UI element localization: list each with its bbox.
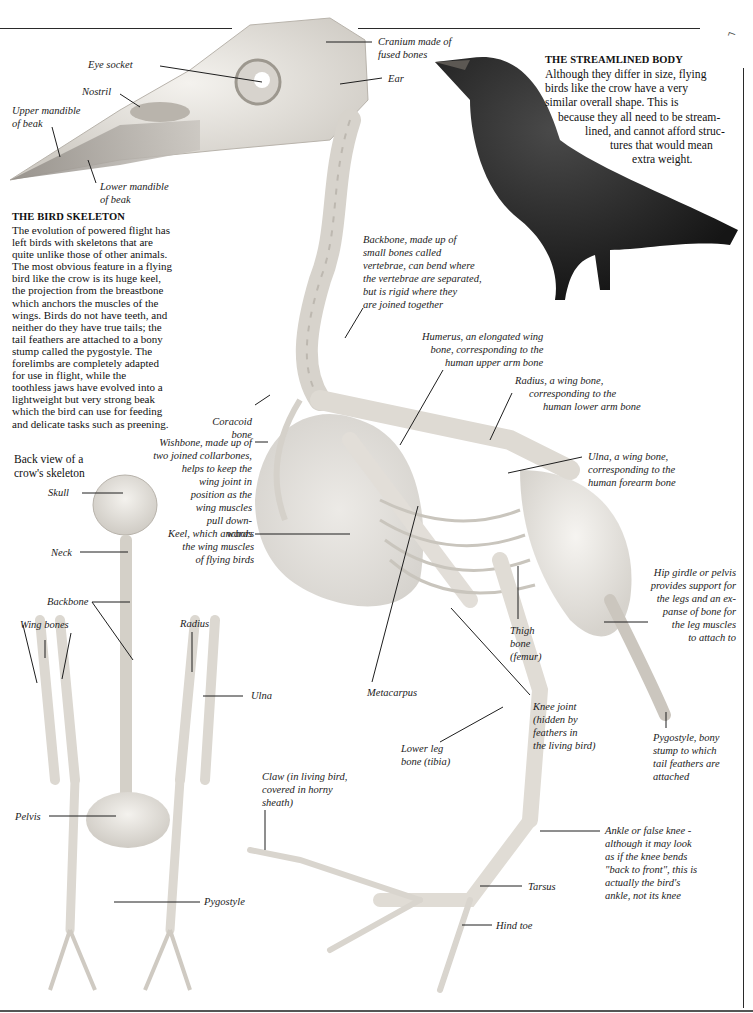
label-tarsus: Tarsus [528,880,556,893]
label-neck: Neck [51,546,72,559]
label-backbone-side: Backbone, made up of small bones called … [363,233,482,311]
label-cranium: Cranium made of fused bones [378,35,452,61]
label-pygostyle-side: Pygostyle, bony stump to which tail feat… [653,731,720,783]
label-wishbone: Wishbone, made up of two joined collarbo… [130,436,252,540]
bird-skeleton-paragraph: The evolution of powered flight has left… [12,224,197,430]
label-ankle: Ankle or false knee - although it may lo… [605,824,697,902]
label-ear: Ear [388,72,404,85]
back-view-caption: Back view of a crow's skeleton [14,452,85,480]
label-lower-leg: Lower leg bone (tibia) [401,742,450,768]
label-hip-girdle: Hip girdle or pelvis provides support fo… [630,566,736,644]
label-lower-mandible: Lower mandible of beak [100,180,169,206]
label-nostril: Nostril [82,85,111,98]
label-eye-socket: Eye socket [88,58,133,71]
streamlined-paragraph: Although they differ in size, flying bir… [545,68,740,167]
label-upper-mandible: Upper mandible of beak [12,104,81,130]
streamlined-heading: THE STREAMLINED BODY [545,54,683,65]
label-knee-joint: Knee joint (hidden by feathers in the li… [533,700,596,752]
label-pygostyle-back: Pygostyle [204,895,245,908]
label-pelvis: Pelvis [15,810,41,823]
label-thigh: Thigh bone (femur) [510,624,542,663]
label-hind-toe: Hind toe [496,919,532,932]
label-ulna-side: Ulna, a wing bone, corresponding to the … [588,450,676,489]
label-metacarpus: Metacarpus [367,686,417,699]
label-keel: Keel, which anchors the wing muscles of … [150,527,254,566]
label-ulna-back: Ulna [251,689,272,702]
label-radius-back: Radius [180,617,209,630]
label-radius-side: Radius, a wing bone, corresponding to th… [515,374,641,413]
skull-side-view [10,18,368,180]
label-wing-bones: Wing bones [20,618,69,631]
bird-skeleton-heading: THE BIRD SKELETON [12,211,125,222]
label-humerus: Humerus, an elongated wing bone, corresp… [405,330,543,369]
label-backbone-back: Backbone [47,595,88,608]
label-claw: Claw (in living bird, covered in horny s… [262,770,347,809]
label-skull-back: Skull [48,486,69,499]
